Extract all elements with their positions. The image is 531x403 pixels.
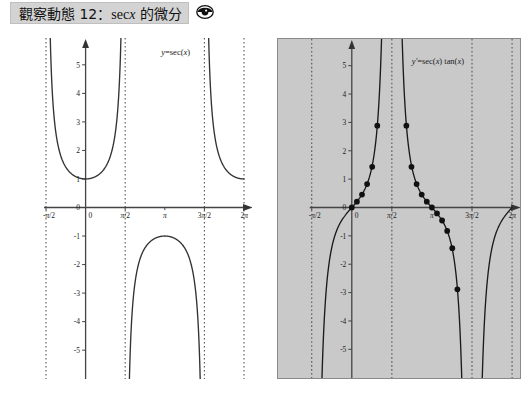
chart-sec-axes (44, 39, 252, 379)
svg-text:y=sec(x): y=sec(x) (160, 47, 190, 57)
page-title-suffix: 的微分 (135, 6, 181, 22)
svg-text:-1: -1 (340, 232, 346, 241)
svg-text:3: 3 (76, 118, 80, 127)
svg-text:π: π (163, 211, 167, 220)
page-title-colon: ： (97, 6, 111, 22)
svg-text:2: 2 (343, 147, 347, 156)
svg-text:2π: 2π (509, 211, 517, 220)
svg-text:-2: -2 (340, 260, 346, 269)
svg-text:4: 4 (76, 89, 80, 98)
svg-text:3π/2: 3π/2 (198, 211, 212, 220)
chart-sec-canvas: -5-4-3-2-1012345-π/20π/2π3π/22π y=sec(x) (12, 38, 252, 379)
chart-sec-tan-canvas: -5-4-3-2-1012345-π/20π/2π3π/22π y'=sec(x… (278, 39, 520, 378)
svg-text:π/2: π/2 (120, 211, 130, 220)
svg-text:-5: -5 (340, 345, 346, 354)
svg-text:-1: -1 (74, 232, 80, 241)
svg-text:4: 4 (343, 90, 347, 99)
svg-text:π: π (430, 211, 434, 220)
chart-sec-tan-axes (310, 40, 520, 378)
svg-text:y'=sec(x) tan(x): y'=sec(x) tan(x) (411, 56, 464, 66)
svg-text:5: 5 (76, 61, 80, 70)
chart-sec-annotation: y=sec(x) (160, 47, 190, 57)
chart-sec-tan: -5-4-3-2-1012345-π/20π/2π3π/22π y'=sec(x… (277, 38, 521, 379)
svg-text:-5: -5 (74, 346, 80, 355)
svg-text:0: 0 (76, 203, 80, 212)
page-title-prefix: 觀察動態 12 (19, 6, 97, 22)
svg-text:5: 5 (343, 61, 347, 70)
svg-text:1: 1 (343, 175, 347, 184)
svg-text:π/2: π/2 (387, 211, 397, 220)
svg-text:-4: -4 (340, 317, 346, 326)
svg-text:-π/2: -π/2 (43, 211, 55, 220)
svg-text:2: 2 (76, 146, 80, 155)
eye-icon[interactable] (196, 4, 214, 20)
page-title-function: sec (111, 7, 129, 22)
chart-sec-tan-annotation: y'=sec(x) tan(x) (411, 56, 464, 66)
svg-text:0: 0 (89, 211, 93, 220)
screenshot-root: 觀察動態 12：secx 的微分 -5-4-3-2-1012345-π/20π/… (0, 0, 531, 403)
svg-text:-4: -4 (74, 317, 80, 326)
svg-text:3: 3 (343, 118, 347, 127)
svg-text:-3: -3 (74, 289, 80, 298)
chart-sec: -5-4-3-2-1012345-π/20π/2π3π/22π y=sec(x) (12, 38, 252, 379)
page-title: 觀察動態 12：secx 的微分 (19, 3, 182, 23)
svg-text:0: 0 (343, 203, 347, 212)
svg-text:-π/2: -π/2 (309, 211, 321, 220)
svg-text:1: 1 (76, 175, 80, 184)
svg-text:-2: -2 (74, 260, 80, 269)
svg-text:3π/2: 3π/2 (465, 211, 479, 220)
svg-text:-3: -3 (340, 288, 346, 297)
page-title-bar: 觀察動態 12：secx 的微分 (10, 2, 189, 24)
svg-text:0: 0 (355, 211, 359, 220)
svg-text:2π: 2π (240, 211, 248, 220)
